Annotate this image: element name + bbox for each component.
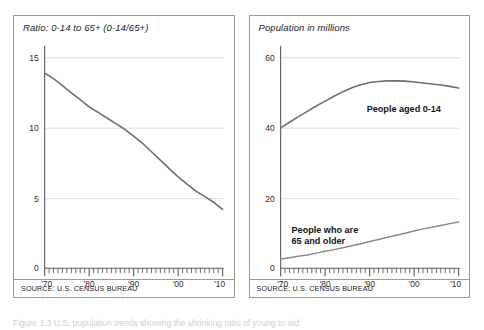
ratio-ytick-15: 15 xyxy=(29,53,39,63)
pop-ytick-0: 0 xyxy=(269,263,274,273)
figure-container: Ratio: 0-14 to 65+ (0-14/65+) xyxy=(13,15,470,298)
pop-ytick-60: 60 xyxy=(265,53,275,63)
ratio-ytick-10: 10 xyxy=(29,123,39,133)
ratio-source-text: SOURCE: U.S. CENSUS BUREAU xyxy=(21,284,138,293)
population-plot-area: 60 40 20 0 '70 '80 '90 '00 '10 People ag… xyxy=(250,16,470,297)
pop-xtick-00: '00 xyxy=(408,279,419,289)
pop-ytick-40: 40 xyxy=(265,123,275,133)
population-panel: Population in millions xyxy=(249,15,471,298)
figure-caption: Figure 1.3 U.S. population trends showin… xyxy=(13,318,473,328)
ratio-xtick-00: '00 xyxy=(173,279,184,289)
ratio-source-rule xyxy=(14,279,234,280)
population-source-rule xyxy=(250,279,470,280)
ratio-panel: Ratio: 0-14 to 65+ (0-14/65+) xyxy=(13,15,235,298)
ratio-ytick-5: 5 xyxy=(34,194,39,204)
annotation-people-65-older-line1: People who are xyxy=(291,225,358,235)
ratio-xtick-10: '10 xyxy=(214,279,225,289)
annotation-people-65-older-line2: 65 and older xyxy=(291,236,345,246)
ratio-ytick-0: 0 xyxy=(34,263,39,273)
annotation-people-aged-0-14: People aged 0-14 xyxy=(366,104,441,114)
ratio-curve xyxy=(45,73,223,209)
pop-ytick-20: 20 xyxy=(265,194,275,204)
pop-xtick-10: '10 xyxy=(450,279,461,289)
ratio-plot-area: 15 10 5 0 '70 '80 '90 '00 '10 xyxy=(14,16,234,297)
population-source-text: SOURCE: U.S. CENSUS BUREAU xyxy=(257,284,374,293)
